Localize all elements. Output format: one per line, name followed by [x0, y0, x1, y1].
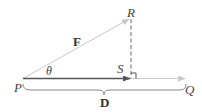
right-angle-marker	[131, 73, 136, 79]
label-s: S	[117, 61, 124, 76]
label-displacement: D	[100, 95, 109, 110]
label-force: F	[73, 34, 81, 49]
label-theta: θ	[46, 64, 52, 78]
brace	[23, 84, 186, 95]
label-r: R	[126, 5, 135, 20]
label-p: P	[13, 80, 22, 95]
label-q: Q	[185, 82, 195, 97]
vector-projection-diagram: P Q R S θ F D	[0, 0, 202, 112]
